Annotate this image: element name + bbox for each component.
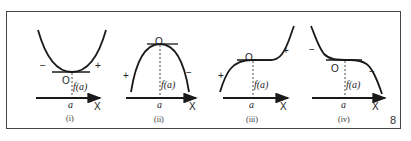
caption: (iv)	[338, 115, 350, 124]
axis-label: X	[280, 101, 287, 112]
curve-maximum	[131, 44, 189, 92]
x-point-label: a	[249, 99, 254, 110]
axis-label: X	[372, 101, 379, 112]
value-label: f(a)	[346, 79, 361, 91]
left-sign: +	[123, 70, 129, 81]
left-sign: +	[218, 70, 224, 81]
x-point-label: a	[341, 99, 346, 110]
right-sign: −	[186, 67, 192, 78]
figure-diagram: − + O f(a) a X (i) + − O f(a) a X (ii) +…	[0, 0, 411, 141]
point-label: O	[155, 36, 163, 47]
axis-label: X	[94, 101, 101, 112]
caption: (ii)	[154, 115, 164, 124]
caption: (iii)	[246, 115, 258, 124]
value-label: f(a)	[73, 81, 88, 93]
left-sign: −	[40, 60, 46, 71]
value-label: f(a)	[161, 79, 176, 91]
right-sign: +	[95, 60, 101, 71]
right-sign: −	[369, 66, 375, 77]
panel-ii: + − O f(a) a X (ii)	[123, 36, 196, 124]
panel-i: − + O f(a) a X (i)	[36, 30, 106, 123]
figure-number: 8	[390, 114, 396, 126]
point-label: O	[245, 52, 253, 63]
value-label: f(a)	[254, 79, 269, 91]
left-sign: −	[309, 44, 315, 55]
panel-iii: + + O f(a) a X (iii)	[218, 26, 294, 124]
panel-iv: − − O f(a) a X (iv)	[309, 26, 385, 124]
axis-label: X	[189, 101, 196, 112]
point-label: O	[331, 63, 339, 74]
right-sign: +	[283, 45, 289, 56]
caption: (i)	[66, 114, 74, 123]
x-point-label: a	[68, 99, 73, 110]
point-label: O	[62, 75, 70, 86]
x-point-label: a	[157, 99, 162, 110]
